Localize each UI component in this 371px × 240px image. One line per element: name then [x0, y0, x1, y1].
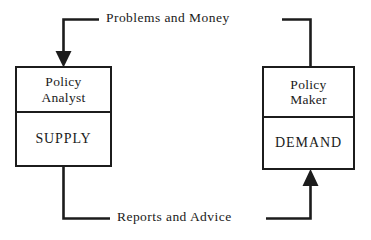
node-policy-analyst[interactable]: Policy Analyst SUPPLY	[15, 66, 112, 167]
node-policy-maker-role-cell: Policy Maker	[264, 68, 353, 118]
node-policy-maker-function-cell: DEMAND	[264, 118, 353, 168]
edge-reports-advice-right-segment	[266, 181, 311, 219]
node-policy-analyst-function-label: SUPPLY	[35, 131, 91, 147]
node-policy-analyst-role-cell: Policy Analyst	[17, 68, 110, 113]
node-policy-maker[interactable]: Policy Maker DEMAND	[262, 66, 355, 170]
edge-reports-advice-left-segment	[64, 167, 111, 219]
diagram-canvas: Policy Analyst SUPPLY Policy Maker DEMAN…	[0, 0, 371, 240]
node-policy-maker-function-label: DEMAND	[275, 135, 342, 151]
arrowhead-into-policy-maker	[303, 169, 319, 186]
node-policy-maker-role-label: Policy Maker	[290, 77, 327, 107]
edge-label-reports-and-advice: Reports and Advice	[112, 210, 237, 224]
node-policy-analyst-role-label: Policy Analyst	[41, 74, 85, 104]
edge-label-problems-and-money: Problems and Money	[101, 11, 235, 25]
edge-problems-money-right-segment	[282, 20, 311, 67]
node-policy-analyst-function-cell: SUPPLY	[17, 113, 110, 165]
